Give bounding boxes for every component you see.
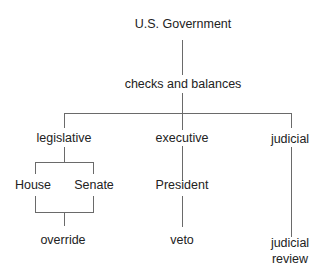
node-president: President [156, 178, 209, 193]
connector-bar-judicial [291, 113, 292, 128]
judicial-review-line2: review [271, 251, 309, 267]
node-legislative: legislative [37, 131, 92, 146]
connector-president-veto [182, 196, 183, 227]
connector-legislative-override [64, 212, 65, 226]
node-override: override [40, 233, 85, 248]
node-us-government: U.S. Government [135, 17, 232, 32]
connector-senate-top [93, 162, 94, 174]
node-veto: veto [170, 233, 194, 248]
node-judicial-review: judicial review [271, 235, 309, 267]
connector-house-top [35, 162, 36, 174]
connector-house-bottom [35, 196, 36, 213]
judicial-review-line1: judicial [271, 235, 309, 251]
node-checks-and-balances: checks and balances [125, 77, 242, 92]
connector-bar-legislative [64, 113, 65, 128]
legislative-top-bar [35, 162, 94, 163]
node-executive: executive [156, 131, 209, 146]
government-diagram: U.S. Government checks and balances legi… [0, 0, 327, 272]
node-senate: Senate [74, 178, 114, 193]
connector-senate-bottom [93, 196, 94, 213]
node-house: House [15, 178, 51, 193]
connector-judicial-review [291, 147, 292, 237]
connector-principle-bar [182, 93, 183, 130]
branch-bar [64, 113, 292, 114]
node-judicial: judicial [271, 132, 309, 147]
connector-legislative-box [64, 147, 65, 162]
connector-root-principle [182, 40, 183, 75]
connector-executive-president [182, 146, 183, 181]
